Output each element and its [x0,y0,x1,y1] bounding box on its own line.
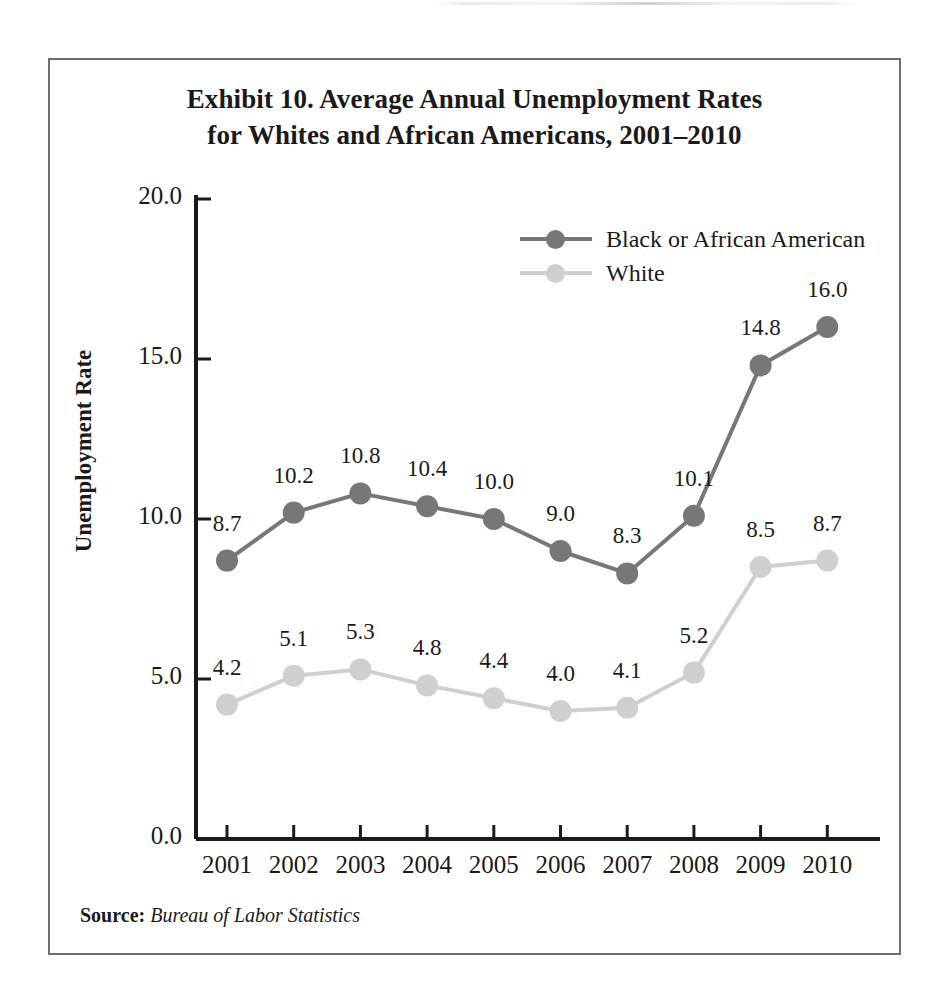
data-point [750,354,772,376]
data-point [816,550,838,572]
source-label: Source: [80,904,145,926]
data-point [550,540,572,562]
data-point [616,562,638,584]
data-point-label: 10.1 [649,466,739,492]
data-point [616,697,638,719]
data-point-label: 8.7 [782,511,872,537]
data-point-label: 8.3 [582,523,672,549]
data-point [416,495,438,517]
data-point-label: 4.1 [582,658,672,684]
legend-label-black-or-african-american: Black or African American [606,226,865,253]
data-point [816,316,838,338]
data-point [683,662,705,684]
data-point-label: 4.2 [182,655,272,681]
data-point [216,694,238,716]
data-point [416,674,438,696]
plot-area: Unemployment Rate 0.05.010.015.020.02001… [50,60,903,957]
data-point [483,687,505,709]
data-point [683,505,705,527]
data-point [750,556,772,578]
y-tick-label: 0.0 [66,822,182,850]
x-tick-label: 2010 [782,851,872,879]
y-tick-label: 10.0 [66,502,182,530]
data-point [283,502,305,524]
data-point [349,482,371,504]
data-point [483,508,505,530]
y-tick-label: 20.0 [66,182,182,210]
data-point-label: 10.0 [449,469,539,495]
source-value: Bureau of Labor Statistics [150,904,360,926]
figure-frame: Exhibit 10. Average Annual Unemployment … [48,58,901,955]
legend-label-white: White [606,260,665,287]
legend-item-black-or-african-american[interactable]: Black or African American [520,222,865,256]
chart-legend: Black or African American White [520,222,865,290]
legend-swatch-white [520,261,592,285]
y-tick-label: 5.0 [66,662,182,690]
y-tick-label: 15.0 [66,342,182,370]
data-point-label: 8.7 [182,511,272,537]
scan-artifact [430,2,860,5]
legend-swatch-black-or-african-american [520,227,592,251]
data-point-label: 14.8 [716,315,806,341]
data-point-label: 5.2 [649,623,739,649]
data-point [550,700,572,722]
source-note: Source: Bureau of Labor Statistics [80,904,360,927]
legend-item-white[interactable]: White [520,256,865,290]
data-point [283,665,305,687]
data-point [349,658,371,680]
data-point [216,550,238,572]
